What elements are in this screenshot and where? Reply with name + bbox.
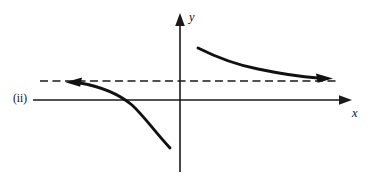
- x-axis-label: x: [351, 106, 358, 120]
- left-branch-arrowhead: [66, 77, 83, 86]
- y-axis: [175, 13, 185, 172]
- x-axis: [33, 95, 352, 105]
- left-branch-curve: [66, 77, 171, 148]
- right-branch-curve: [198, 48, 333, 83]
- right-branch-path: [198, 48, 318, 78]
- left-branch-path: [80, 83, 170, 148]
- figure-container: (ii) y x: [0, 0, 372, 178]
- graph-canvas: y x: [0, 0, 372, 178]
- y-axis-label: y: [187, 10, 195, 24]
- y-axis-arrowhead: [175, 13, 185, 26]
- x-axis-arrowhead: [339, 95, 352, 105]
